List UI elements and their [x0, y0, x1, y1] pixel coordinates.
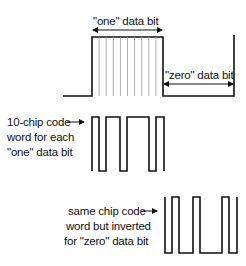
inverted-label-line2: word but inverted: [66, 220, 151, 233]
code-word-one-waveform: [67, 117, 164, 171]
code-word-label-line1: 10-chip code: [7, 116, 70, 129]
data-bit-waveform: [63, 30, 234, 96]
inverted-label-line3: for "zero" data bit: [64, 235, 148, 248]
code-word-label-line2: word for each: [7, 131, 74, 144]
chip-dividers: [99, 37, 156, 96]
zero-bit-label: "zero" data bit: [165, 69, 233, 82]
one-bit-label: "one" data bit: [93, 15, 158, 28]
code-word-zero-waveform: [143, 197, 237, 253]
inverted-label-line1: same chip code: [68, 205, 146, 218]
code-word-label-line3: "one" data bit: [7, 146, 72, 159]
